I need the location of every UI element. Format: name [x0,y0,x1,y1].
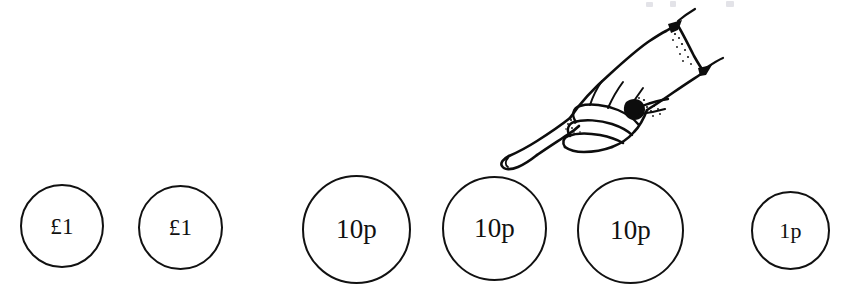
coin-label: 10p [336,216,377,243]
coin-label: 10p [474,215,515,242]
pointing-hand-illustration [492,2,714,170]
coin-row: £1£110p10p10p1p [0,0,843,297]
coin-label: 10p [610,217,651,244]
coin-1-pound[interactable]: £1 [20,184,104,268]
coin-1-pound[interactable]: £1 [138,185,223,270]
coin-10-pence[interactable]: 10p [302,175,411,284]
coin-1-penny[interactable]: 1p [751,191,830,270]
coin-10-pence[interactable]: 10p [577,177,684,284]
coin-label: 1p [779,220,801,242]
coin-label: £1 [50,215,73,238]
coin-label: £1 [169,216,192,239]
coin-10-pence[interactable]: 10p [442,176,547,281]
worksheet-scene: £1£110p10p10p1p [0,0,843,297]
